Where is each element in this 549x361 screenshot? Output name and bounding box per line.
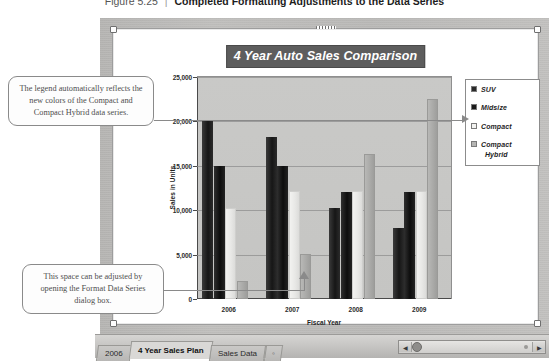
bar-midsize-2006[interactable]	[214, 166, 225, 299]
legend-swatch-icon	[471, 141, 477, 147]
y-axis-title[interactable]: Sales in Units	[165, 76, 179, 298]
y-axis-tick-mark	[193, 299, 197, 300]
selection-handle-top-right[interactable]	[534, 26, 541, 33]
bar-compact-hybrid-2009[interactable]	[427, 99, 438, 299]
legend-item-label: SUV	[481, 85, 496, 94]
bar-compact-2006[interactable]	[225, 208, 236, 299]
figure-separator: |	[165, 0, 168, 7]
y-axis-tick-label: 25,000	[173, 74, 192, 81]
selection-handle-top-left[interactable]	[110, 26, 117, 33]
sheet-tab-sales-data[interactable]: Sales Data	[209, 345, 266, 361]
bar-midsize-2007[interactable]	[277, 166, 288, 299]
bar-midsize-2008[interactable]	[341, 192, 352, 299]
sheet-tab-label: 2006	[105, 346, 123, 361]
sheet-tab-label: 4 Year Sales Plan	[138, 342, 204, 359]
legend-item-compact-hybrid[interactable]: CompactHybrid	[471, 140, 535, 159]
y-axis-tick-mark	[193, 121, 197, 122]
x-axis-title[interactable]: Fiscal Year	[197, 319, 451, 326]
y-axis-tick-label: 15,000	[173, 162, 192, 169]
legend-item-label: Midsize	[481, 103, 507, 112]
selection-handle-bottom-left[interactable]	[110, 320, 117, 327]
new-sheet-icon: ◦	[272, 346, 275, 361]
scrollbar-right-marker	[524, 345, 528, 349]
sheet-tabs[interactable]: 20064 Year Sales PlanSales Data◦	[95, 335, 280, 358]
bar-suv-2007[interactable]	[266, 137, 277, 299]
gridline	[197, 77, 451, 78]
x-axis-tick-label-2008: 2008	[349, 306, 363, 313]
y-axis-tick-mark	[193, 77, 197, 78]
callout-space-note: This space can be adjusted by opening th…	[22, 264, 164, 314]
bar-suv-2008[interactable]	[329, 208, 340, 299]
callout-legend-arrow-icon	[462, 115, 469, 123]
sheet-tab-label: Sales Data	[218, 346, 257, 361]
callout-legend-leader-line	[154, 120, 464, 121]
horizontal-scrollbar[interactable]: ◀ ▶	[398, 340, 546, 354]
y-axis-tick-mark	[193, 210, 197, 211]
sheet-tab-4-year-sales-plan[interactable]: 4 Year Sales Plan	[129, 341, 213, 359]
y-axis-tick-label: 20,000	[173, 118, 192, 125]
sheet-tab-bar: 20064 Year Sales PlanSales Data◦ ◀ ▶	[95, 334, 549, 358]
sheet-tab-2006[interactable]: 2006	[96, 345, 132, 361]
gridline	[197, 166, 451, 167]
callout-legend-note: The legend automatically reflects the ne…	[8, 76, 154, 126]
callout-space-leader-line	[164, 290, 305, 291]
excel-worksheet-window: 4 Year Auto Sales Comparison Sales in Un…	[100, 18, 549, 334]
y-axis-tick-label: 10,000	[173, 207, 192, 214]
callout-space-leader-line-vertical	[304, 278, 305, 291]
legend-swatch-icon	[471, 104, 477, 110]
bar-compact-2009[interactable]	[416, 191, 427, 299]
selection-handle-bottom-right[interactable]	[534, 320, 541, 327]
legend-item-midsize[interactable]: Midsize	[471, 103, 535, 112]
bar-suv-2006[interactable]	[202, 121, 213, 299]
bar-compact-2008[interactable]	[352, 191, 363, 299]
chart-legend[interactable]: SUVMidsizeCompactCompactHybrid	[465, 79, 540, 166]
selection-handle-top-middle[interactable]	[316, 26, 336, 29]
chart-object[interactable]: 4 Year Auto Sales Comparison Sales in Un…	[112, 28, 539, 325]
legend-swatch-icon	[471, 123, 477, 129]
chart-title[interactable]: 4 Year Auto Sales Comparison	[226, 45, 426, 68]
bar-midsize-2009[interactable]	[404, 192, 415, 299]
x-axis-tick-label-2009: 2009	[412, 306, 426, 313]
scroll-left-arrow-icon[interactable]: ◀	[399, 342, 412, 352]
figure-number: Figure 5.25	[105, 0, 158, 7]
bar-compact-hybrid-2008[interactable]	[364, 154, 375, 299]
scrollbar-thumb[interactable]	[412, 342, 422, 352]
figure-caption: Figure 5.25 | Completed Formatting Adjus…	[0, 0, 549, 11]
legend-item-compact[interactable]: Compact	[471, 122, 535, 131]
y-axis-tick-label: 5,000	[176, 251, 192, 258]
plot-area[interactable]: 05,00010,00015,00020,00025,000 200620072…	[197, 76, 452, 299]
bar-suv-2009[interactable]	[393, 228, 404, 299]
y-axis-tick-mark	[193, 255, 197, 256]
bar-compact-2007[interactable]	[289, 191, 300, 299]
x-axis-tick-label-2006: 2006	[222, 306, 236, 313]
y-axis-title-label: Sales in Units	[169, 165, 176, 209]
legend-item-suv[interactable]: SUV	[471, 85, 535, 94]
legend-swatch-icon	[471, 86, 477, 92]
figure-title: Completed Formatting Adjustments to the …	[174, 0, 444, 7]
y-axis-line	[197, 77, 198, 299]
gridline	[197, 121, 451, 122]
legend-item-label: CompactHybrid	[481, 140, 512, 159]
legend-item-label: Compact	[481, 122, 512, 131]
y-axis-tick-mark	[193, 166, 197, 167]
new-sheet-tab[interactable]: ◦	[264, 345, 283, 361]
x-axis-tick-label-2007: 2007	[285, 306, 299, 313]
callout-space-arrow-icon	[299, 271, 309, 279]
scroll-right-arrow-icon[interactable]: ▶	[532, 342, 545, 352]
y-axis-tick-label: 0	[188, 296, 192, 303]
